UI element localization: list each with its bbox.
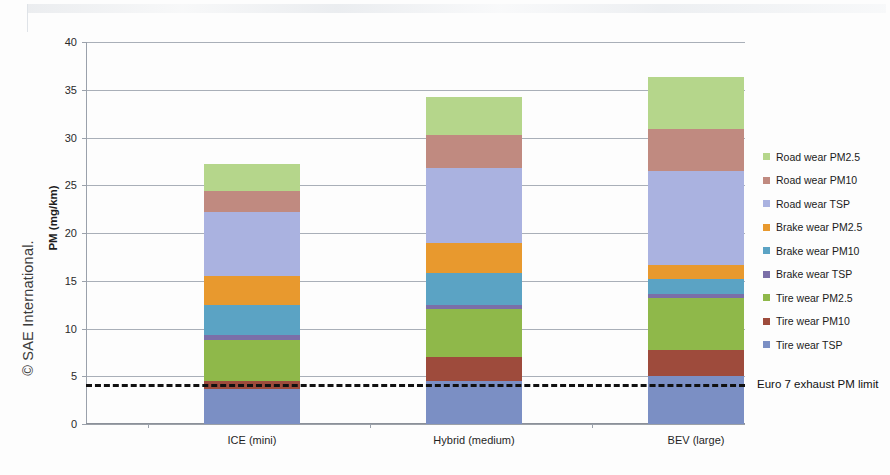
bar-segment bbox=[426, 273, 522, 305]
bar-segment bbox=[648, 350, 744, 377]
bar-group-3 bbox=[648, 42, 744, 424]
bar-group-2 bbox=[426, 42, 522, 424]
legend-item[interactable]: Road wear PM10 bbox=[763, 169, 888, 193]
x-tick-mark bbox=[148, 424, 149, 428]
y-tick-label: 5 bbox=[71, 370, 77, 382]
x-tick-label: Hybrid (medium) bbox=[433, 434, 514, 446]
legend-item[interactable]: Tire wear PM10 bbox=[763, 310, 888, 334]
legend-item-label: Brake wear PM2.5 bbox=[776, 222, 862, 233]
bar-segment bbox=[426, 381, 522, 424]
bar-segment bbox=[204, 191, 300, 212]
threshold-line bbox=[86, 384, 745, 387]
bar-segment bbox=[648, 77, 744, 129]
legend-swatch-icon bbox=[763, 341, 770, 348]
bar-segment bbox=[426, 357, 522, 381]
bar-segment bbox=[426, 243, 522, 274]
legend-swatch-icon bbox=[763, 294, 770, 301]
bar-segment bbox=[204, 340, 300, 381]
legend-item-label: Brake wear PM10 bbox=[776, 246, 859, 257]
x-tick-mark bbox=[592, 424, 593, 428]
bar-segment bbox=[204, 389, 300, 424]
x-tick-label: BEV (large) bbox=[668, 434, 725, 446]
legend-item-label: Road wear TSP bbox=[776, 199, 850, 210]
bar-segment bbox=[204, 212, 300, 276]
legend-item[interactable]: Tire wear PM2.5 bbox=[763, 286, 888, 310]
y-tick-mark bbox=[82, 376, 86, 377]
legend-swatch-icon bbox=[763, 153, 770, 160]
gridline bbox=[86, 138, 745, 139]
bar-segment bbox=[648, 294, 744, 298]
chart-page: © SAE International. PM (mg/km) 05101520… bbox=[0, 0, 890, 475]
y-tick-label: 10 bbox=[65, 323, 77, 335]
legend-item-label: Tire wear TSP bbox=[776, 340, 843, 351]
legend-item-label: Road wear PM2.5 bbox=[776, 152, 860, 163]
gridline bbox=[86, 185, 745, 186]
legend-item[interactable]: Brake wear PM2.5 bbox=[763, 216, 888, 240]
bar-segment bbox=[648, 129, 744, 171]
y-tick-mark bbox=[82, 424, 86, 425]
y-tick-mark bbox=[82, 281, 86, 282]
bar-segment bbox=[648, 265, 744, 278]
plot-region: 0510152025303540 Euro 7 exhaust PM limit… bbox=[86, 42, 745, 424]
y-tick-label: 35 bbox=[65, 84, 77, 96]
x-tick-mark bbox=[370, 424, 371, 428]
bar-segment bbox=[648, 171, 744, 266]
y-tick-mark bbox=[82, 329, 86, 330]
y-tick-label: 30 bbox=[65, 132, 77, 144]
bar-segment bbox=[204, 335, 300, 340]
gridline bbox=[86, 233, 745, 234]
chart-legend: Road wear PM2.5Road wear PM10Road wear T… bbox=[763, 145, 888, 357]
legend-item[interactable]: Brake wear TSP bbox=[763, 263, 888, 287]
bar-segment bbox=[204, 276, 300, 305]
gridline bbox=[86, 42, 745, 43]
legend-swatch-icon bbox=[763, 177, 770, 184]
legend-item-label: Tire wear PM2.5 bbox=[776, 293, 853, 304]
y-tick-label: 15 bbox=[65, 275, 77, 287]
bar-segment bbox=[648, 279, 744, 294]
legend-item-label: Brake wear TSP bbox=[776, 269, 852, 280]
legend-item[interactable]: Brake wear PM10 bbox=[763, 239, 888, 263]
legend-swatch-icon bbox=[763, 247, 770, 254]
bar-segment bbox=[426, 168, 522, 242]
bar-segment bbox=[648, 298, 744, 350]
bar-segment bbox=[426, 309, 522, 357]
y-tick-label: 20 bbox=[65, 227, 77, 239]
bar-segment bbox=[426, 135, 522, 168]
gridline bbox=[86, 281, 745, 282]
legend-item[interactable]: Road wear PM2.5 bbox=[763, 145, 888, 169]
y-tick-mark bbox=[82, 138, 86, 139]
legend-swatch-icon bbox=[763, 318, 770, 325]
gridline bbox=[86, 376, 745, 377]
legend-swatch-icon bbox=[763, 271, 770, 278]
y-tick-mark bbox=[82, 90, 86, 91]
legend-item-label: Tire wear PM10 bbox=[776, 316, 850, 327]
bar-segment bbox=[426, 305, 522, 310]
bar-segment bbox=[204, 305, 300, 336]
y-tick-label: 25 bbox=[65, 179, 77, 191]
bar-segment bbox=[204, 164, 300, 191]
threshold-label: Euro 7 exhaust PM limit bbox=[757, 378, 878, 390]
gridline bbox=[86, 424, 745, 425]
legend-swatch-icon bbox=[763, 200, 770, 207]
y-tick-label: 0 bbox=[71, 418, 77, 430]
legend-item[interactable]: Tire wear TSP bbox=[763, 333, 888, 357]
gridline bbox=[86, 90, 745, 91]
legend-swatch-icon bbox=[763, 224, 770, 231]
bar-segment bbox=[426, 97, 522, 134]
chart-area: PM (mg/km) 0510152025303540 Euro 7 exhau… bbox=[0, 0, 890, 475]
x-tick-label: ICE (mini) bbox=[228, 434, 277, 446]
bar-group-1 bbox=[204, 42, 300, 424]
y-tick-mark bbox=[82, 233, 86, 234]
y-axis-title: PM (mg/km) bbox=[47, 158, 59, 278]
legend-item-label: Road wear PM10 bbox=[776, 175, 857, 186]
y-tick-mark bbox=[82, 42, 86, 43]
gridline bbox=[86, 329, 745, 330]
y-tick-label: 40 bbox=[65, 36, 77, 48]
legend-item[interactable]: Road wear TSP bbox=[763, 192, 888, 216]
y-tick-mark bbox=[82, 185, 86, 186]
